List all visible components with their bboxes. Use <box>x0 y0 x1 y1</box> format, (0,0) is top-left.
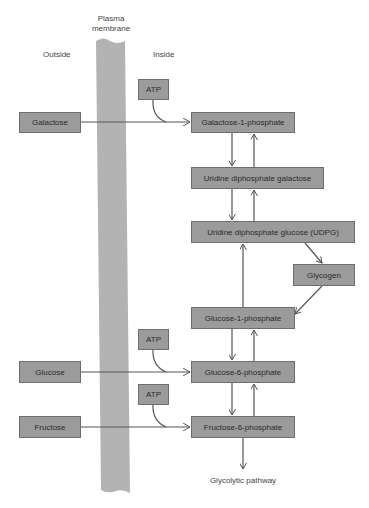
atp-curve-3 <box>153 404 166 427</box>
fructose-box: Fructose <box>19 416 81 438</box>
arrow-glycogen-to-glc1p <box>295 286 322 314</box>
atp-box-3: ATP <box>138 384 169 405</box>
glucose-1-phosphate-box: Glucose-1-phosphate <box>191 307 295 329</box>
galactose-box: Galactose <box>19 112 81 133</box>
atp-curve-2 <box>153 349 166 372</box>
membrane-label: Plasma membrane <box>89 14 133 34</box>
galactose-1-phosphate-box: Galactose-1-phosphate <box>191 112 295 133</box>
inside-label: Inside <box>153 50 174 60</box>
glycogen-box: Glycogen <box>293 264 355 286</box>
udpg-box: Uridine diphosphate glucose (UDPG) <box>191 221 355 243</box>
glucose-6-phosphate-box: Glucose-6-phosphate <box>191 361 295 383</box>
udp-galactose-box: Uridine diphosphate galactose <box>191 167 324 189</box>
plasma-membrane <box>96 39 130 494</box>
glucose-box: Glucose <box>19 361 81 383</box>
glycolytic-pathway-label: Glycolytic pathway <box>203 476 283 486</box>
membrane-label-line1: Plasma <box>89 14 133 24</box>
atp-curve-1 <box>153 100 166 122</box>
atp-box-1: ATP <box>138 79 169 100</box>
arrow-udpg-to-glycogen <box>305 243 322 263</box>
diagram-canvas: Plasma membrane Outside Inside Glycolyti… <box>0 0 369 508</box>
atp-box-2: ATP <box>138 329 169 350</box>
outside-label: Outside <box>43 50 71 60</box>
membrane-label-line2: membrane <box>89 24 133 34</box>
fructose-6-phosphate-box: Fructose-6-phosphate <box>191 416 295 438</box>
